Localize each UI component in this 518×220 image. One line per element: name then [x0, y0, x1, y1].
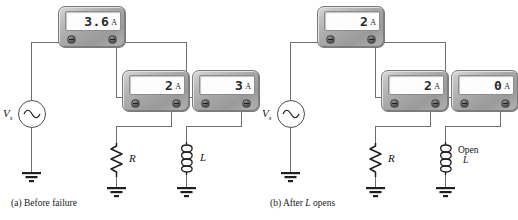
ground-symbol-resistor: [365, 187, 386, 200]
resistor-label: R: [388, 152, 395, 164]
ground-symbol-source: [280, 172, 301, 185]
source-label-text: V: [262, 107, 269, 119]
sine-wave-icon: [19, 101, 45, 127]
wire-source-to-meter-vertical: [290, 42, 291, 100]
meter-display: 2 A: [129, 75, 185, 95]
meter-terminal-right[interactable]: [108, 35, 117, 44]
ground-symbol-inductor: [435, 187, 456, 200]
meter-terminal-right[interactable]: [501, 99, 510, 108]
wire-meter2-to-resistor-horizontal: [375, 126, 431, 127]
ground-symbol-inductor: [176, 187, 197, 200]
meter-terminal-right[interactable]: [367, 35, 376, 44]
panel-caption: (b) After L opens: [270, 198, 335, 208]
meter-unit: A: [370, 19, 376, 27]
wire-meter3-to-inductor-horizontal: [445, 126, 501, 127]
wire-meter2-to-resistor-horizontal: [116, 126, 172, 127]
meter-terminal-right[interactable]: [431, 99, 440, 108]
ground-symbol-resistor: [106, 187, 127, 200]
meter-value: 2: [360, 15, 368, 28]
meter-terminal-left[interactable]: [131, 99, 140, 108]
open-note-line2: L: [458, 155, 479, 165]
caption-prefix: (b): [270, 198, 281, 208]
ground-symbol-source: [21, 172, 42, 185]
wire-node-bus: [375, 42, 445, 43]
meter-value: 3.6: [84, 15, 109, 28]
meter-value: 2: [165, 79, 173, 92]
wire-source-to-ground: [31, 128, 32, 173]
caption-text: After: [283, 198, 303, 208]
wire-node-bus: [116, 42, 186, 43]
source-label-subscript: s: [269, 114, 272, 122]
ac-source-symbol: [277, 100, 305, 128]
wire-meter3-to-inductor-horizontal: [186, 126, 242, 127]
total-current-meter[interactable]: 3.6 A: [58, 6, 126, 48]
meter-terminal-left[interactable]: [390, 99, 399, 108]
meter-value: 2: [424, 79, 432, 92]
source-label-text: V: [3, 107, 10, 119]
open-inductor-note: Open L: [458, 145, 479, 165]
wire-node-to-meter2: [375, 42, 376, 97]
meter-display: 3 A: [199, 75, 255, 95]
meter-unit: A: [111, 19, 117, 27]
open-note-line1: Open: [458, 145, 479, 155]
meter-display: 2 A: [388, 75, 444, 95]
wire-source-to-meter-vertical: [31, 42, 32, 100]
meter-value: 0: [494, 79, 502, 92]
meter-value: 3: [235, 79, 243, 92]
meter-unit: A: [245, 83, 251, 91]
inductor-branch-meter[interactable]: 3 A: [192, 70, 260, 112]
caption-suffix: opens: [313, 198, 335, 208]
meter-display: 2 A: [324, 11, 380, 31]
source-label-subscript: s: [10, 114, 13, 122]
meter-display: 3.6 A: [65, 11, 121, 31]
inductor-symbol: [179, 141, 196, 176]
inductor-symbol: [438, 141, 455, 176]
wire-inductor-to-ground: [186, 174, 187, 188]
meter-terminal-left[interactable]: [201, 99, 210, 108]
panel-caption: (a) Before failure: [11, 198, 77, 208]
total-current-meter[interactable]: 2 A: [317, 6, 385, 48]
wire-inductor-to-ground: [445, 174, 446, 188]
circuit-figure: 3.6 A 2 A 3 A: [0, 0, 518, 220]
resistor-branch-meter[interactable]: 2 A: [381, 70, 449, 112]
caption-prefix: (a): [11, 198, 22, 208]
wire-node-to-meter2: [116, 42, 117, 97]
inductor-branch-meter[interactable]: 0 A: [451, 70, 518, 112]
meter-terminal-left[interactable]: [67, 35, 76, 44]
resistor-symbol: [367, 143, 384, 177]
meter-unit: A: [504, 83, 510, 91]
sine-wave-icon: [278, 101, 304, 127]
resistor-label: R: [129, 152, 136, 164]
meter-display: 0 A: [458, 75, 514, 95]
meter-terminal-left[interactable]: [460, 99, 469, 108]
meter-unit: A: [434, 83, 440, 91]
panel-after-l-opens: 2 A 2 A 0 A: [259, 0, 518, 220]
source-label: Vs: [262, 107, 271, 122]
caption-text: Before failure: [24, 198, 77, 208]
meter-terminal-right[interactable]: [172, 99, 181, 108]
ac-source-symbol: [18, 100, 46, 128]
wire-source-to-ground: [290, 128, 291, 173]
meter-terminal-left[interactable]: [326, 35, 335, 44]
meter-unit: A: [175, 83, 181, 91]
resistor-branch-meter[interactable]: 2 A: [122, 70, 190, 112]
meter-terminal-right[interactable]: [242, 99, 251, 108]
caption-italic-component: L: [305, 198, 310, 208]
inductor-label: L: [200, 151, 206, 163]
panel-before-failure: 3.6 A 2 A 3 A: [0, 0, 259, 220]
source-label: Vs: [3, 107, 12, 122]
resistor-symbol: [108, 143, 125, 177]
